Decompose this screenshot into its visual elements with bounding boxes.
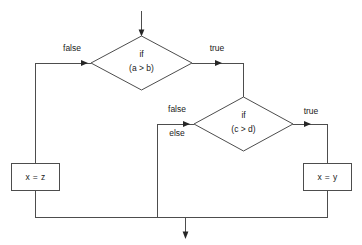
process-left-label: x = z [25, 172, 45, 182]
exit-arrowhead-icon [183, 232, 189, 240]
edge-decision2-true-arrowhead-icon [304, 121, 311, 127]
edge-label-decision2-false: false [168, 104, 186, 114]
edge-decision1-false-arrowhead-icon [81, 60, 88, 66]
flowchart-diagram: if (a > b) false true if (c > d) false [0, 0, 362, 245]
decision-2-label-line1: if [241, 110, 246, 120]
decision-2-label-line2: (c > d) [231, 124, 255, 134]
entry-edge [139, 11, 145, 37]
decision-1-label-line2: (a > b) [129, 63, 154, 73]
edge-decision1-true-arrowhead-icon [215, 60, 222, 66]
flowchart-canvas: if (a > b) false true if (c > d) false [0, 0, 362, 245]
decision-1-label-line1: if [139, 49, 144, 59]
edge-decision2-false: false else [158, 104, 195, 217]
edge-decision1-false-line [36, 63, 92, 218]
exit-edge [183, 218, 189, 240]
edge-label-decision1-true: true [210, 43, 225, 53]
edge-decision1-true-line [192, 63, 244, 97]
process-node-left: x = z [12, 164, 60, 191]
process-right-label: x = y [317, 172, 338, 182]
edge-decision2-true: true [293, 106, 328, 217]
process-node-right: x = y [304, 164, 352, 191]
edge-decision1-false: false [36, 43, 92, 218]
edge-label-decision2-true: true [304, 106, 319, 116]
edge-decision1-true: true [192, 43, 244, 97]
decision-node-1: if (a > b) [91, 36, 192, 90]
edge-decision2-false-arrowhead-icon [183, 121, 190, 127]
edge-label-decision2-else: else [169, 128, 185, 138]
edge-label-decision1-false: false [63, 43, 81, 53]
decision-node-2: if (c > d) [194, 97, 293, 151]
